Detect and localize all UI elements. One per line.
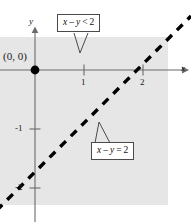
boundary-callout-box: x–y=2 xyxy=(91,142,134,160)
inequality-minus: – xyxy=(69,17,74,27)
origin-point-label: (0, 0) xyxy=(3,51,27,62)
boundary-minus: – xyxy=(103,145,108,155)
inequality-graph-figure: y x (0, 0) 1 2 -1 -2 x–y<2 x–y=2 xyxy=(0,0,191,222)
x-axis-label: x xyxy=(181,64,185,73)
inequality-var-y: y xyxy=(76,17,80,27)
boundary-relation: = xyxy=(116,145,121,155)
y-tick-label-minus-2: -2 xyxy=(15,183,23,192)
inequality-rhs: 2 xyxy=(90,17,95,27)
x-tick-label-1: 1 xyxy=(81,78,86,87)
x-tick-label-2: 2 xyxy=(140,78,145,87)
boundary-rhs: 2 xyxy=(124,145,129,155)
graph-canvas xyxy=(0,0,191,222)
y-tick-label-minus-1: -1 xyxy=(15,124,23,133)
boundary-var-y: y xyxy=(110,145,114,155)
y-axis-label: y xyxy=(29,17,33,26)
inequality-var-x: x xyxy=(63,17,67,27)
inequality-callout-box: x–y<2 xyxy=(57,14,100,32)
origin-point-marker xyxy=(31,66,40,75)
inequality-relation: < xyxy=(82,17,87,27)
boundary-var-x: x xyxy=(97,145,101,155)
